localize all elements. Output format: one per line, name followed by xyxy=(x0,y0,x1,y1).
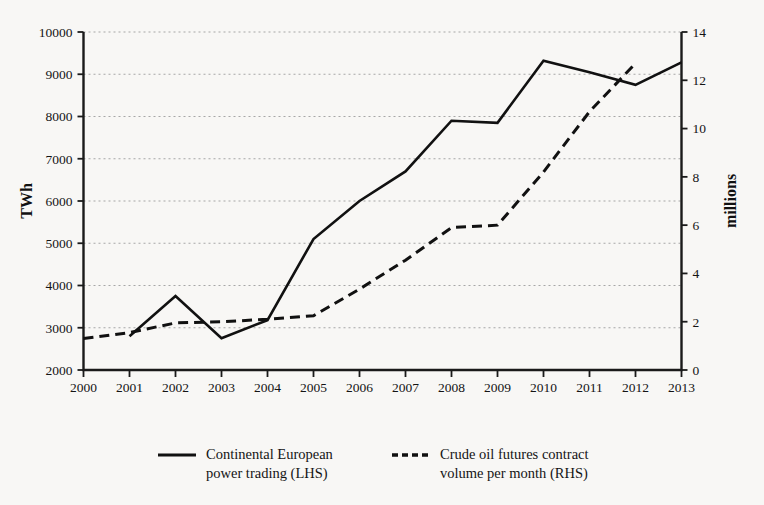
axis-spines-group xyxy=(84,32,682,370)
right-tick-label: 12 xyxy=(693,73,707,88)
x-tick-label: 2012 xyxy=(622,380,649,395)
legend-label-1-line1: Crude oil futures contract xyxy=(440,446,589,462)
x-tick-label: 2000 xyxy=(70,380,97,395)
left-tick-label: 10000 xyxy=(39,25,73,40)
right-tick-label: 8 xyxy=(693,170,700,185)
right-axis-ticks: 02468101214 xyxy=(682,25,707,378)
left-tick-label: 6000 xyxy=(46,194,73,209)
x-tick-label: 2004 xyxy=(254,380,281,395)
x-tick-label: 2008 xyxy=(438,380,465,395)
left-tick-label: 4000 xyxy=(46,278,73,293)
x-tick-label: 2003 xyxy=(208,380,235,395)
legend-label-0-line2: power trading (LHS) xyxy=(206,465,328,482)
right-tick-label: 4 xyxy=(693,266,700,281)
right-tick-label: 10 xyxy=(693,121,707,136)
x-tick-label: 2002 xyxy=(162,380,189,395)
x-tick-label: 2010 xyxy=(530,380,557,395)
left-axis-title: TWh xyxy=(18,183,35,219)
x-tick-label: 2005 xyxy=(300,380,327,395)
gridlines-group xyxy=(84,32,682,328)
bottom-axis-ticks: 2000200120022003200420052006200720082009… xyxy=(70,370,695,395)
left-tick-label: 5000 xyxy=(46,236,73,251)
left-tick-label: 8000 xyxy=(46,109,73,124)
left-tick-label: 2000 xyxy=(46,363,73,378)
right-tick-label: 2 xyxy=(693,315,700,330)
left-tick-label: 7000 xyxy=(46,152,73,167)
axis-frame xyxy=(84,32,682,370)
right-axis-title: millions xyxy=(722,174,739,228)
chart-legend: Continental Europeanpower trading (LHS)C… xyxy=(158,446,589,482)
x-tick-label: 2006 xyxy=(346,380,373,395)
right-tick-label: 14 xyxy=(693,25,707,40)
right-tick-label: 6 xyxy=(693,218,700,233)
left-tick-label: 9000 xyxy=(46,67,73,82)
legend-label-1-line2: volume per month (RHS) xyxy=(440,465,588,482)
x-tick-label: 2013 xyxy=(668,380,695,395)
left-tick-label: 3000 xyxy=(46,321,73,336)
x-tick-label: 2001 xyxy=(116,380,143,395)
data-series-group xyxy=(84,61,682,339)
right-tick-label: 0 xyxy=(693,363,700,378)
x-tick-label: 2009 xyxy=(484,380,511,395)
chart-figure: 2000300040005000600070008000900010000 02… xyxy=(0,0,764,505)
legend-label-0-line1: Continental European xyxy=(206,446,334,462)
x-tick-label: 2011 xyxy=(576,380,603,395)
chart-canvas: 2000300040005000600070008000900010000 02… xyxy=(0,0,764,505)
left-axis-ticks: 2000300040005000600070008000900010000 xyxy=(39,25,84,378)
x-tick-label: 2007 xyxy=(392,380,419,395)
